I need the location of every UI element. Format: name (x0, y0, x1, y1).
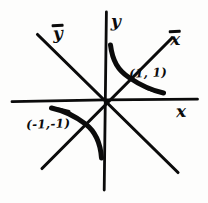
x-bar-glyph: x (170, 30, 181, 48)
x-bar-axis-label: x (170, 30, 181, 48)
point-label-one-one: (1, 1) (129, 66, 168, 79)
y-axis-label: y (111, 13, 121, 30)
y-bar-axis-label: y (53, 24, 64, 42)
hyperbola-figure: y y x x (1, 1) (-1,-1) (0, 0, 208, 203)
x-axis-label: x (176, 103, 187, 121)
y-bar-glyph: y (53, 24, 64, 42)
point-label-neg-one-neg-one: (-1,-1) (26, 117, 71, 131)
y-axis-line (104, 12, 106, 190)
